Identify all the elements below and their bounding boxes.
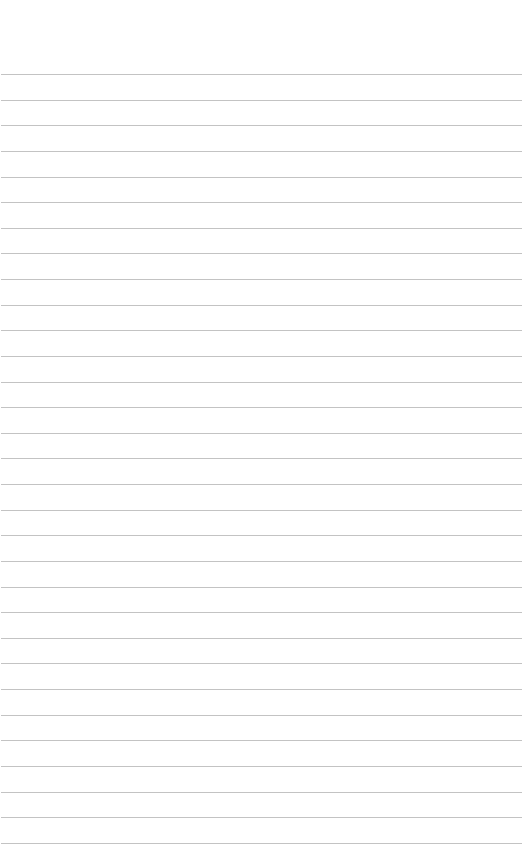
ruled-line — [1, 715, 522, 716]
ruled-line — [1, 740, 522, 741]
ruled-line — [1, 458, 522, 459]
ruled-line — [1, 228, 522, 229]
ruled-line — [1, 587, 522, 588]
ruled-line — [1, 305, 522, 306]
ruled-line — [1, 766, 522, 767]
ruled-line — [1, 151, 522, 152]
ruled-line — [1, 125, 522, 126]
ruled-line — [1, 253, 522, 254]
lined-paper-sheet — [0, 0, 527, 868]
ruled-line — [1, 638, 522, 639]
ruled-line — [1, 279, 522, 280]
ruled-line — [1, 407, 522, 408]
ruled-line — [1, 561, 522, 562]
ruled-line — [1, 382, 522, 383]
ruled-line — [1, 535, 522, 536]
ruled-line — [1, 792, 522, 793]
ruled-line — [1, 177, 522, 178]
ruled-line — [1, 100, 522, 101]
ruled-line — [1, 510, 522, 511]
ruled-line — [1, 817, 522, 818]
ruled-line — [1, 74, 522, 75]
ruled-line — [1, 433, 522, 434]
ruled-line — [1, 689, 522, 690]
ruled-line — [1, 663, 522, 664]
ruled-line — [1, 484, 522, 485]
ruled-line — [1, 356, 522, 357]
ruled-line — [1, 202, 522, 203]
ruled-line — [1, 612, 522, 613]
ruled-line — [1, 330, 522, 331]
ruled-line — [1, 843, 522, 844]
